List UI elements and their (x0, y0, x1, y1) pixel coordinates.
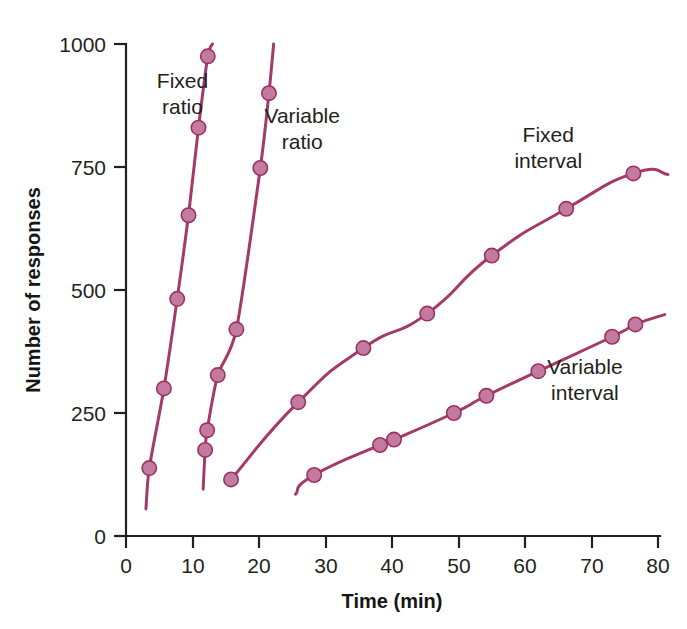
series-line-fixed-interval (231, 169, 668, 479)
series-label-variable-ratio: Variableratio (264, 104, 340, 153)
y-tick-label-250: 250 (71, 402, 106, 425)
series-label-line2: interval (514, 149, 582, 172)
series-label-variable-interval: Variableinterval (547, 355, 623, 404)
y-axis-title: Number of responses (22, 187, 44, 393)
x-tick-label-30: 30 (314, 554, 337, 577)
data-point (605, 330, 619, 344)
data-point (356, 341, 370, 355)
data-point (479, 389, 493, 403)
x-tick-label-40: 40 (380, 554, 403, 577)
x-tick-label-0: 0 (120, 554, 132, 577)
data-point (191, 120, 205, 134)
data-point (229, 322, 243, 336)
reinforcement-schedules-chart: 1000 750 500 250 0 0 10 20 30 40 50 (0, 0, 687, 629)
data-point (420, 306, 434, 320)
y-tick-label-750: 750 (71, 156, 106, 179)
x-tick-label-20: 20 (247, 554, 270, 577)
data-point (387, 432, 401, 446)
data-point (253, 161, 267, 175)
series-label-text: Fixedratio (157, 69, 208, 118)
y-tick-label-0: 0 (94, 525, 106, 548)
chart-container: 1000 750 500 250 0 0 10 20 30 40 50 (0, 0, 687, 629)
series-label-fixed-interval: Fixedinterval (514, 123, 582, 172)
data-point (628, 317, 642, 331)
data-point (447, 406, 461, 420)
series-label-line1: Fixed (523, 123, 574, 146)
series-label-text: Fixedinterval (514, 123, 582, 172)
series-label-text: Variableratio (264, 104, 340, 153)
data-point (307, 468, 321, 482)
data-point (157, 381, 171, 395)
y-tick-label-1000: 1000 (59, 33, 106, 56)
series-label-line2: ratio (162, 95, 203, 118)
data-point (485, 248, 499, 262)
series-label-line1: Fixed (157, 69, 208, 92)
x-tick-label-50: 50 (447, 554, 470, 577)
data-point (559, 202, 573, 216)
series-label-line2: interval (551, 381, 619, 404)
series-label-text: Variableinterval (547, 355, 623, 404)
data-point (262, 86, 276, 100)
data-point (142, 461, 156, 475)
series-layer (142, 44, 668, 509)
data-point (211, 368, 225, 382)
series-line-variable-ratio (203, 44, 273, 489)
data-point (373, 438, 387, 452)
data-point (198, 443, 212, 457)
series-label-line2: ratio (282, 130, 323, 153)
x-tick-label-70: 70 (580, 554, 603, 577)
x-axis-title: Time (min) (342, 590, 443, 612)
series-label-line1: Variable (547, 355, 623, 378)
data-point (224, 472, 238, 486)
data-point (626, 166, 640, 180)
series-variable-interval (296, 315, 665, 495)
x-tick-label-10: 10 (181, 554, 204, 577)
data-point (201, 49, 215, 63)
series-label-fixed-ratio: Fixedratio (157, 69, 208, 118)
x-tick-label-60: 60 (513, 554, 536, 577)
x-axis-ticks: 0 10 20 30 40 50 60 70 80 (120, 536, 670, 577)
series-label-line1: Variable (264, 104, 340, 127)
data-point (200, 423, 214, 437)
axes (126, 44, 660, 536)
data-point (291, 395, 305, 409)
data-point (170, 292, 184, 306)
data-point (531, 364, 545, 378)
y-axis-ticks: 1000 750 500 250 0 (59, 33, 126, 548)
x-tick-label-80: 80 (646, 554, 669, 577)
y-tick-label-500: 500 (71, 279, 106, 302)
data-point (181, 208, 195, 222)
series-fixed-interval (224, 166, 668, 486)
